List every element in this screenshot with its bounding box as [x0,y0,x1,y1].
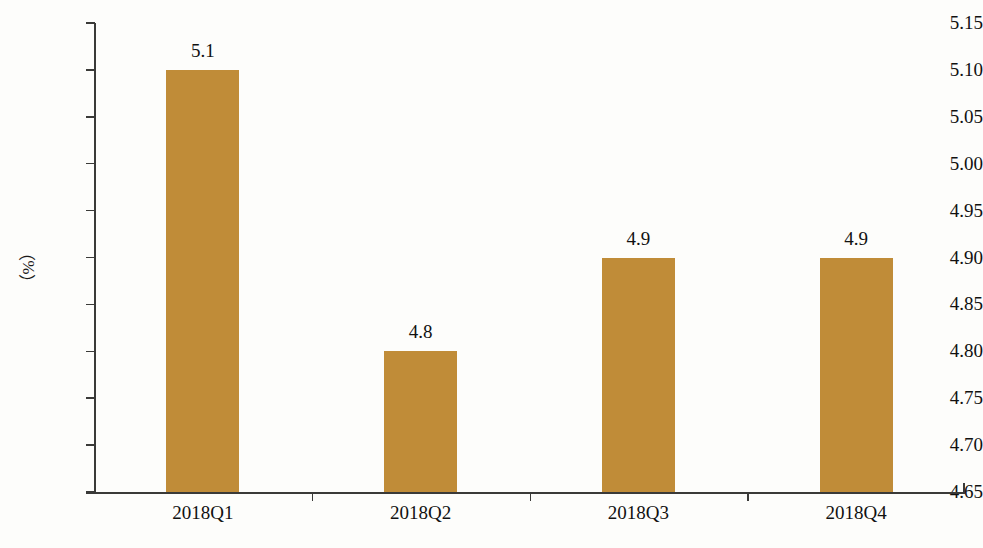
x-axis-category-label: 2018Q3 [608,502,669,524]
x-axis-category-label: 2018Q1 [172,502,233,524]
y-axis-tick [86,116,95,118]
y-axis-tick [86,69,95,71]
bar-chart: （%） 5.155.105.055.004.954.904.854.804.75… [0,0,983,548]
bar [384,351,457,492]
y-axis-tick-label: 5.15 [905,12,983,34]
y-axis-tick-label: 4.80 [905,340,983,362]
bar-value-label: 4.9 [844,228,868,250]
y-axis-tick-label: 4.70 [905,434,983,456]
x-axis-line [86,492,965,494]
x-axis-category-label: 2018Q4 [826,502,887,524]
y-axis-tick-label: 4.95 [905,200,983,222]
bar [820,258,893,493]
y-axis-tick [86,22,95,24]
bar-value-label: 4.8 [409,321,433,343]
y-axis-tick-label: 5.10 [905,59,983,81]
y-axis-tick [86,304,95,306]
y-axis-tick-label: 4.90 [905,247,983,269]
x-axis-tick [312,492,314,501]
y-axis-tick-label: 5.00 [905,153,983,175]
y-axis-tick-label: 5.05 [905,106,983,128]
y-axis-tick [86,210,95,212]
y-axis-tick-label: 4.85 [905,293,983,315]
bar [166,70,239,492]
bar-value-label: 5.1 [191,40,215,62]
y-axis-tick-label: 4.75 [905,387,983,409]
x-axis-category-label: 2018Q2 [390,502,451,524]
x-axis-tick [530,492,532,501]
y-axis-tick [86,444,95,446]
y-axis-tick [86,397,95,399]
y-axis-tick [86,257,95,259]
bar-value-label: 4.9 [627,228,651,250]
y-axis-tick [86,351,95,353]
x-axis-end-tick [963,483,965,493]
y-axis-title: （%） [6,248,46,288]
x-axis-tick [747,492,749,501]
y-axis-tick [86,163,95,165]
bar [602,258,675,493]
